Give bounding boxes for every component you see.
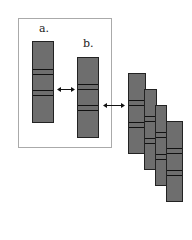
label-a: a. xyxy=(39,22,49,35)
double-arrow-icon xyxy=(103,102,125,109)
double-arrow-icon xyxy=(57,86,75,93)
bar-a xyxy=(32,41,54,123)
stack-bar-4 xyxy=(166,121,183,202)
bar-b xyxy=(77,57,99,138)
label-b: b. xyxy=(83,37,94,50)
